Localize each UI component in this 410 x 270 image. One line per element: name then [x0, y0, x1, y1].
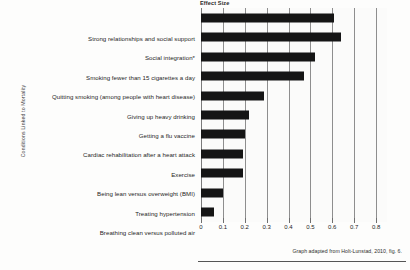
tick-mark — [267, 218, 268, 223]
category-label: Giving up heavy drinking — [127, 112, 195, 119]
bar — [201, 169, 243, 178]
tick-mark — [376, 218, 377, 223]
tick-mark — [201, 218, 202, 223]
bar — [201, 52, 315, 61]
x-tick-label: 0 — [199, 224, 202, 230]
x-tick-label: 0.4 — [284, 224, 292, 230]
bottom-divider — [198, 261, 406, 262]
bar — [201, 149, 243, 158]
bar — [201, 208, 214, 217]
x-tick-label: 0.5 — [306, 224, 314, 230]
bar — [201, 130, 245, 139]
x-tick-label: 0.2 — [241, 224, 249, 230]
tick-mark — [223, 218, 224, 223]
category-label: Social integration* — [145, 54, 195, 61]
x-tick-label: 0.7 — [350, 224, 358, 230]
x-tick-label: 0.6 — [328, 224, 336, 230]
bar — [201, 188, 223, 197]
category-label: Cardiac rehabilitation after a heart att… — [83, 151, 195, 158]
bar — [201, 13, 334, 22]
x-axis-ticks: 00.10.20.30.40.50.60.70.8 — [201, 224, 387, 236]
x-tick-label: 0.8 — [372, 224, 380, 230]
tick-mark — [332, 218, 333, 223]
bar — [201, 33, 341, 42]
bar — [201, 111, 249, 120]
tick-mark — [310, 218, 311, 223]
source-annotation: Graph adapted from Holt-Lunstad, 2010, f… — [292, 248, 402, 254]
category-label: Getting a flu vaccine — [139, 132, 195, 139]
tick-mark — [245, 218, 246, 223]
bar — [201, 72, 304, 81]
category-label-column: Strong relationships and social supportS… — [14, 18, 198, 222]
tick-mark — [289, 218, 290, 223]
gridline-0_7 — [354, 8, 355, 222]
category-label: Quitting smoking (among people with hear… — [52, 93, 195, 100]
category-label: Smoking fewer than 15 cigarettes a day — [86, 73, 195, 80]
x-tick-label: 0.3 — [262, 224, 270, 230]
category-label: Treating hypertension — [135, 209, 195, 216]
chart-figure: Effect Size Conditions Linked to Mortali… — [0, 0, 410, 270]
tick-mark — [354, 218, 355, 223]
category-label: Breathing clean versus polluted air — [100, 229, 195, 236]
category-label: Being lean versus overweight (BMI) — [97, 190, 195, 197]
chart-title: Effect Size — [200, 0, 229, 6]
bar — [201, 91, 264, 100]
category-label: Exercise — [171, 170, 195, 177]
gridline-0_8 — [376, 8, 377, 222]
x-tick-label: 0.1 — [219, 224, 227, 230]
category-label: Strong relationships and social support — [88, 34, 195, 41]
plot-area — [201, 8, 387, 222]
